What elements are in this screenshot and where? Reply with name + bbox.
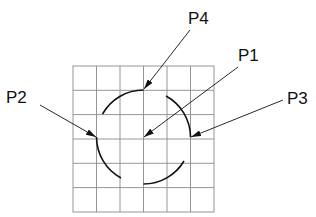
- arc-bottom-right: [144, 161, 185, 184]
- leader-p1: [144, 67, 238, 137]
- leader-p3: [191, 100, 283, 137]
- grid: [73, 66, 214, 212]
- arc-left-bottom: [97, 137, 122, 178]
- leader-p2: [40, 105, 96, 137]
- arc-top-right: [166, 96, 191, 137]
- label-p2: P2: [6, 88, 27, 107]
- label-p4: P4: [188, 9, 209, 28]
- label-p1: P1: [238, 46, 259, 65]
- arc-top-left: [103, 90, 144, 114]
- arc-diagram: P4 P1 P2 P3: [0, 0, 316, 217]
- label-p3: P3: [287, 89, 308, 108]
